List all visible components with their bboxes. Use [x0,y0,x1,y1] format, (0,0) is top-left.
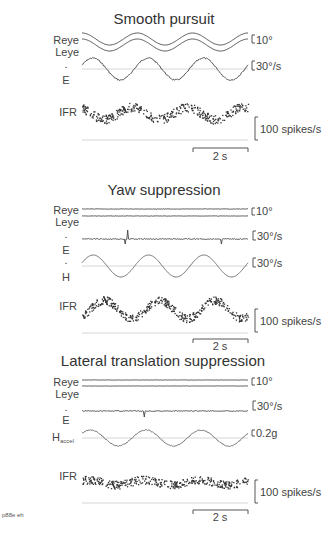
label-h-dot: . [64,254,67,266]
scale-head-velocity: 30°/s [257,257,283,269]
label-ifr: IFR [59,106,77,118]
scale-bar-ifr [255,480,258,503]
panel-smooth-pursuit: Smooth pursuit Reye Leye . E IFR 10° 30°… [53,10,321,162]
scale-position: 10° [256,375,273,387]
label-e-dot: . [64,58,67,70]
scale-time: 2 s [213,340,228,352]
scale-bar-head-accel [252,430,255,436]
scale-bar-eye-velocity [253,231,256,240]
label-h: H [62,271,70,283]
label-ifr: IFR [59,300,77,312]
scale-bar-ifr [255,309,258,332]
trace-eye-velocity [82,411,248,417]
panel-lateral-translation-suppression: Lateral translation suppression Reye Ley… [52,352,322,523]
scale-ifr: 100 spikes/s [260,315,322,327]
label-e-dot: . [64,228,67,240]
label-leye: Leye [55,46,79,58]
label-ifr: IFR [59,470,77,482]
label-reye: Reye [53,34,79,46]
scale-bar-position [252,35,255,43]
label-h: H [52,431,60,443]
trace-reye [82,33,248,45]
panel-title: Yaw suppression [107,181,220,198]
scale-head-accel: 0.2g [256,427,277,439]
scale-bar-position [252,378,255,385]
scale-bar-position [252,208,255,215]
panel-title: Smooth pursuit [114,10,216,27]
label-e: E [62,74,69,86]
label-leye: Leye [55,388,79,400]
scale-time: 2 s [213,511,228,523]
scale-eye-velocity: 30°/s [256,60,282,72]
scale-eye-velocity: 30°/s [257,400,283,412]
scale-bar-eye-velocity [252,61,255,70]
label-leye: Leye [55,216,79,228]
label-reye: Reye [53,376,79,388]
scale-time: 2 s [213,150,228,162]
scatter-ifr [83,476,249,490]
label-reye: Reye [53,204,79,216]
label-h-subscript: accel [60,438,74,444]
panel-yaw-suppression: Yaw suppression Reye Leye . E . H IFR 10… [53,181,321,352]
scale-bar-eye-velocity [253,401,256,410]
scale-position: 10° [256,205,273,217]
label-e: E [62,414,69,426]
label-e-dot: . [64,401,67,413]
figure-canvas: Smooth pursuit Reye Leye . E IFR 10° 30°… [0,0,331,539]
scale-ifr: 100 spikes/s [260,486,322,498]
scale-bar-head-velocity [253,258,256,267]
scatter-ifr [82,296,249,323]
panel-title: Lateral translation suppression [61,352,265,369]
scale-bar-ifr [255,117,258,140]
scale-ifr: 100 spikes/s [260,123,322,135]
scale-eye-velocity: 30°/s [257,230,283,242]
trace-eye-velocity [82,230,248,244]
scale-position: 10° [256,34,273,46]
scatter-ifr [82,103,249,125]
footer-id-label: p88e eh [2,512,24,518]
